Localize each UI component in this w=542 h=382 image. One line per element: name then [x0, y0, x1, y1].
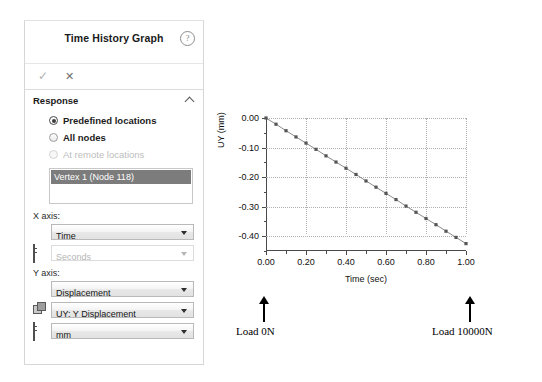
y-axis-quantity-value: Displacement: [52, 288, 111, 298]
x-tick-minor: [366, 251, 367, 254]
x-tick: [346, 251, 347, 255]
plot-frame: 0.000.200.400.600.801.000.00-0.10-0.20-0…: [266, 118, 466, 251]
page-title: Time History Graph: [25, 32, 203, 44]
x-tick: [426, 251, 427, 255]
radio-mark-icon: [49, 116, 58, 125]
x-tick-minor: [406, 251, 407, 254]
component-cube-icon: [33, 302, 48, 317]
panel-header: Time History Graph ?: [25, 21, 203, 64]
x-tick-label: 0.80: [417, 257, 435, 267]
y-tick-minor: [264, 251, 267, 252]
x-axis-quantity-row: Time: [25, 223, 203, 240]
section-label: Response: [33, 95, 78, 106]
radio-label: Predefined locations: [63, 115, 156, 126]
x-tick-minor: [286, 251, 287, 254]
x-tick: [266, 251, 267, 255]
load-start-label: Load 0N: [236, 325, 275, 337]
x-tick: [306, 251, 307, 255]
radio-label: At remote locations: [63, 149, 144, 160]
y-axis-unit-value: mm: [52, 330, 71, 340]
y-axis-component-value: UY: Y Displacement: [52, 309, 136, 319]
x-tick-label: 0.00: [257, 257, 275, 267]
radio-at-remote-locations: At remote locations: [25, 146, 203, 163]
x-tick-label: 1.00: [457, 257, 475, 267]
x-tick: [386, 251, 387, 255]
list-item[interactable]: Vertex 1 (Node 118): [51, 170, 191, 184]
response-section-header[interactable]: Response: [25, 90, 203, 112]
x-axis-quantity-value: Time: [52, 231, 76, 241]
y-tick-label: 0.00: [241, 113, 259, 123]
series-line: [266, 118, 466, 251]
radio-label: All nodes: [63, 132, 106, 143]
node-list[interactable]: Vertex 1 (Node 118): [49, 168, 193, 204]
radio-mark-icon: [49, 133, 58, 142]
x-tick-label: 0.40: [337, 257, 355, 267]
chevron-down-icon: [181, 309, 187, 313]
x-axis-unit-select: Seconds: [51, 245, 194, 261]
panel-action-bar: ✓✕: [25, 64, 203, 90]
radio-all-nodes[interactable]: All nodes: [25, 129, 203, 146]
help-icon[interactable]: ?: [180, 31, 195, 46]
y-axis-component-select[interactable]: UY: Y Displacement: [51, 302, 194, 318]
x-tick: [466, 251, 467, 255]
chevron-down-icon: [181, 288, 187, 292]
y-axis-unit-row: mm: [25, 322, 203, 339]
y-axis-quantity-row: Displacement: [25, 280, 203, 297]
x-tick-minor: [326, 251, 327, 254]
load-end-arrow-icon: [464, 296, 476, 322]
x-axis-quantity-select[interactable]: Time: [51, 224, 194, 240]
chevron-down-icon: [181, 231, 187, 235]
chevron-down-icon: [181, 252, 187, 256]
x-axis-title: Time (sec): [266, 274, 466, 284]
x-tick-minor: [446, 251, 447, 254]
radio-predefined-locations[interactable]: Predefined locations: [25, 112, 203, 129]
chevron-down-icon: [181, 330, 187, 334]
x-axis-group-label: X axis:: [25, 211, 203, 221]
x-axis-unit-row: Seconds: [25, 244, 203, 261]
gridline-vertical: [466, 118, 467, 234]
chevron-up-icon[interactable]: [186, 95, 195, 104]
y-tick-label: -0.40: [238, 231, 259, 241]
x-tick-label: 0.20: [297, 257, 315, 267]
ruler-icon: [33, 323, 48, 338]
load-start-arrow-icon: [258, 296, 270, 322]
y-tick-label: -0.30: [238, 202, 259, 212]
load-end-label: Load 10000N: [432, 325, 493, 337]
y-axis-group-label: Y axis:: [25, 268, 203, 278]
y-tick-label: -0.10: [238, 143, 259, 153]
radio-mark-icon: [49, 150, 58, 159]
ruler-icon: [33, 245, 48, 260]
accept-button[interactable]: ✓: [33, 66, 53, 86]
y-axis-component-row: UY: Y Displacement: [25, 301, 203, 318]
time-history-graph-panel: Time History Graph ? ✓✕ Response Predefi…: [24, 20, 204, 365]
y-axis-unit-select[interactable]: mm: [51, 323, 194, 339]
y-tick-label: -0.20: [238, 172, 259, 182]
y-axis-quantity-select[interactable]: Displacement: [51, 281, 194, 297]
x-tick-label: 0.60: [377, 257, 395, 267]
x-axis-unit-value: Seconds: [52, 252, 91, 262]
cancel-button[interactable]: ✕: [59, 66, 79, 86]
y-axis-title: UY (mm): [216, 112, 226, 148]
